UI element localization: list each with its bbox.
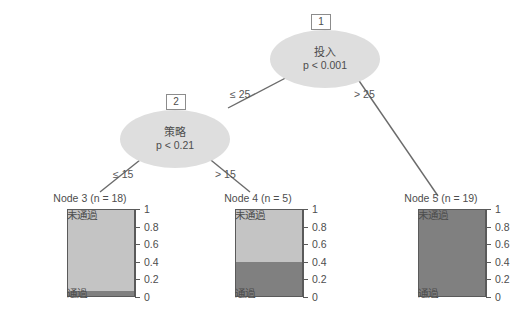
tick-label: 0 <box>312 291 318 303</box>
node-number-2: 2 <box>166 94 186 110</box>
tick-mark <box>486 297 491 298</box>
terminal-node-4: Node 4 (n = 5) 未通過 通過 1 0.8 0.6 0.4 0.2 … <box>188 192 328 302</box>
terminal-node-4-plot: 未通過 通過 1 0.8 0.6 0.4 0.2 0 <box>188 209 328 297</box>
tick-label: 1 <box>312 203 318 215</box>
tick-label: 0.8 <box>495 221 510 233</box>
terminal-node-5-axis <box>486 209 487 297</box>
terminal-node-3-plot: 未通過 通過 1 0.8 0.6 0.4 0.2 0 <box>20 209 160 297</box>
terminal-node-5-bar <box>418 209 486 297</box>
tick-label: 0 <box>495 291 501 303</box>
edge-label-root-left: ≤ 25 <box>230 88 250 100</box>
tick-mark <box>303 297 308 298</box>
terminal-node-4-title: Node 4 (n = 5) <box>188 192 328 204</box>
inner-node-2-variable: 策略 <box>164 126 186 140</box>
tick-label: 0.8 <box>312 221 327 233</box>
tick-label: 1 <box>144 203 150 215</box>
terminal-node-3-fail-segment <box>68 210 134 291</box>
terminal-node-5-plot: 未通過 通過 1 0.8 0.6 0.4 0.2 0 <box>371 209 511 297</box>
tick-mark <box>486 227 491 228</box>
inner-node-2-pvalue: p < 0.21 <box>156 139 194 152</box>
terminal-node-3-axis <box>135 209 136 297</box>
tick-mark <box>135 297 140 298</box>
inner-node-1-pvalue: p < 0.001 <box>303 59 347 72</box>
tick-mark <box>303 209 308 210</box>
tick-label: 0.6 <box>312 238 327 250</box>
terminal-node-4-bar <box>235 209 303 297</box>
tick-label: 0.4 <box>312 256 327 268</box>
terminal-node-5: Node 5 (n = 19) 未通過 通過 1 0.8 0.6 0.4 0.2… <box>371 192 511 302</box>
terminal-node-5-title: Node 5 (n = 19) <box>371 192 511 204</box>
tick-label: 1 <box>495 203 501 215</box>
terminal-node-3-bar <box>67 209 135 297</box>
inner-node-1-variable: 投入 <box>314 46 336 60</box>
tick-mark <box>486 262 491 263</box>
tick-label: 0.6 <box>144 238 159 250</box>
tick-label: 0.2 <box>312 273 327 285</box>
inner-node-1[interactable]: 投入 p < 0.001 <box>270 30 380 88</box>
tick-mark <box>135 209 140 210</box>
tick-mark <box>135 244 140 245</box>
tick-mark <box>303 279 308 280</box>
inner-node-2[interactable]: 策略 p < 0.21 <box>120 110 230 168</box>
tick-label: 0.2 <box>495 273 510 285</box>
node-number-1: 1 <box>311 14 331 30</box>
tick-mark <box>486 244 491 245</box>
tick-mark <box>486 209 491 210</box>
edge-label-node2-right: > 15 <box>215 168 236 180</box>
tick-label: 0.4 <box>495 256 510 268</box>
terminal-node-5-pass-segment <box>419 210 485 296</box>
tick-mark <box>303 244 308 245</box>
tick-mark <box>303 262 308 263</box>
tick-mark <box>486 279 491 280</box>
decision-tree-figure: 1 投入 p < 0.001 ≤ 25 > 25 2 策略 p < 0.21 ≤… <box>0 0 522 320</box>
tick-label: 0.2 <box>144 273 159 285</box>
terminal-node-4-axis <box>303 209 304 297</box>
tick-label: 0 <box>144 291 150 303</box>
tick-mark <box>135 279 140 280</box>
terminal-node-3-title: Node 3 (n = 18) <box>20 192 160 204</box>
edge-label-node2-left: ≤ 15 <box>113 168 133 180</box>
tick-label: 0.4 <box>144 256 159 268</box>
tick-mark <box>303 227 308 228</box>
edge-label-root-right: > 25 <box>354 88 375 100</box>
tick-label: 0.8 <box>144 221 159 233</box>
tick-mark <box>135 227 140 228</box>
tick-label: 0.6 <box>495 238 510 250</box>
tick-mark <box>135 262 140 263</box>
terminal-node-3: Node 3 (n = 18) 未通過 通過 1 0.8 0.6 0.4 0.2… <box>20 192 160 302</box>
